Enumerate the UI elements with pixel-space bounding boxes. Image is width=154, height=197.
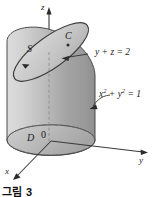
plane-equation-label: y + z = 2 [95,48,130,58]
figure-caption: 그림 3 [2,183,32,197]
cyl-eq-equals-one: = 1 [125,89,141,99]
curve-point-marker [67,44,70,47]
base-disk [7,125,95,155]
z-axis-label: z [41,3,45,12]
disk-label-d: D [27,133,34,143]
curve-label-c: C [65,31,72,41]
y-axis-label: y [139,156,143,165]
origin-label: 0 [41,130,46,140]
surface-label-s: S [27,44,32,54]
cyl-eq-plus-y: + y [106,89,121,99]
figure-container: z y x S C D 0 y + z = 2 x2 + y2 = 1 그림 3 [0,0,154,197]
cylinder-equation-label: x2 + y2 = 1 [99,88,141,100]
x-axis-label: x [5,167,9,176]
